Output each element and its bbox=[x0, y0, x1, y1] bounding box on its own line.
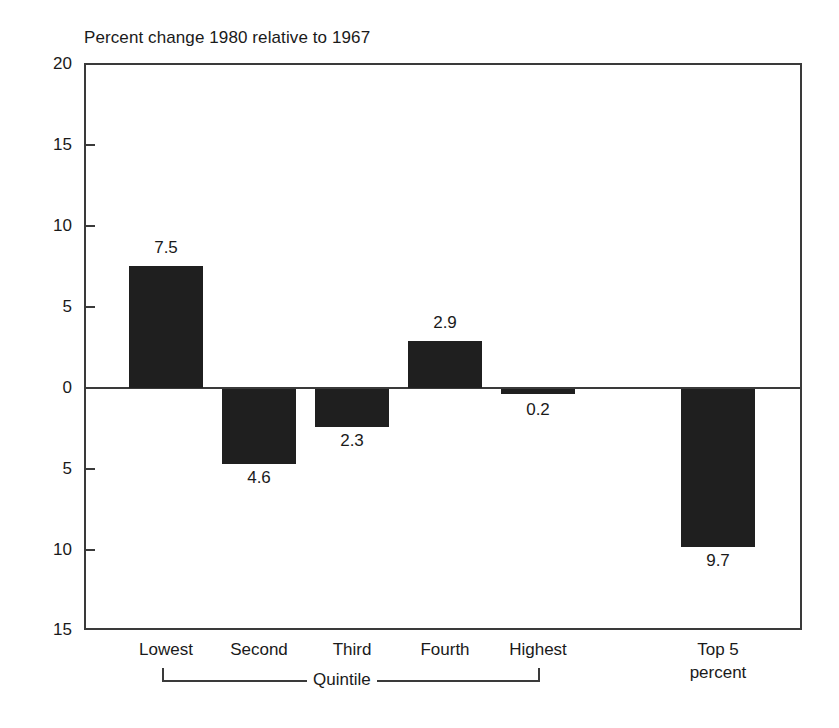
y-axis-tick-10 bbox=[84, 225, 95, 227]
bar-second bbox=[222, 389, 296, 464]
y-axis-label-20: 20 bbox=[26, 54, 72, 74]
x-axis-label-top5-line1: Top 5 bbox=[668, 639, 768, 660]
y-axis-tick-neg10 bbox=[84, 549, 95, 551]
y-axis-label-neg15: 15 bbox=[26, 620, 72, 640]
bar-value-lowest: 7.5 bbox=[126, 238, 206, 258]
y-axis-tick-0 bbox=[84, 387, 95, 389]
quintile-bracket-end-right bbox=[538, 668, 540, 682]
x-axis-label-highest: Highest bbox=[488, 639, 588, 660]
x-axis-label-third: Third bbox=[302, 639, 402, 660]
bar-value-second: 4.6 bbox=[219, 468, 299, 488]
bar-fourth bbox=[408, 341, 482, 388]
bar-value-highest: 0.2 bbox=[498, 400, 578, 420]
chart-container: Percent change 1980 relative to 1967 20 … bbox=[0, 0, 839, 728]
y-axis-label-neg10: 10 bbox=[26, 540, 72, 560]
y-axis-label-neg5: 5 bbox=[26, 459, 72, 479]
bar-third bbox=[315, 389, 389, 427]
bar-top5 bbox=[681, 389, 755, 547]
quintile-bracket-label: Quintile bbox=[307, 670, 377, 690]
bar-value-third: 2.3 bbox=[312, 431, 392, 451]
y-axis-tick-15 bbox=[84, 144, 95, 146]
y-axis-label-10: 10 bbox=[26, 216, 72, 236]
y-axis-label-15: 15 bbox=[26, 135, 72, 155]
y-axis-label-5: 5 bbox=[26, 297, 72, 317]
y-axis-label-0: 0 bbox=[26, 378, 72, 398]
bar-value-top5: 9.7 bbox=[678, 551, 758, 571]
bar-value-fourth: 2.9 bbox=[405, 313, 485, 333]
quintile-bracket-end-left bbox=[162, 668, 164, 682]
x-axis-label-top5-line2: percent bbox=[668, 662, 768, 683]
chart-title: Percent change 1980 relative to 1967 bbox=[84, 28, 370, 48]
x-axis-label-second: Second bbox=[209, 639, 309, 660]
x-axis-label-fourth: Fourth bbox=[395, 639, 495, 660]
y-axis-tick-5 bbox=[84, 306, 95, 308]
y-axis-tick-neg5 bbox=[84, 468, 95, 470]
bar-lowest bbox=[129, 266, 203, 388]
x-axis-label-lowest: Lowest bbox=[116, 639, 216, 660]
bar-highest bbox=[501, 389, 575, 394]
